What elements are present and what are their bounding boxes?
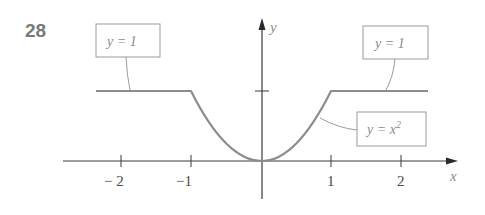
y-axis-arrow-icon xyxy=(259,18,266,30)
x-tick-label-1: 1 xyxy=(327,173,335,189)
graph: x y − 2 −1 1 2 y = 1 y = 1 y = x2 xyxy=(0,0,485,215)
x-tick-label-2: 2 xyxy=(397,173,405,189)
x-tick-label-neg1: −1 xyxy=(176,173,192,189)
left-box-leader xyxy=(126,57,130,90)
x-axis-label: x xyxy=(449,168,457,184)
parabola-label-text: y = x2 xyxy=(365,119,401,137)
x-axis-arrow-icon xyxy=(446,158,458,165)
left-label-text: y = 1 xyxy=(105,34,137,49)
right-box-leader xyxy=(386,59,395,90)
x-tick-label-neg2: − 2 xyxy=(104,173,124,189)
parabola-box-leader xyxy=(320,118,357,130)
parabola-label-exponent: 2 xyxy=(396,119,401,130)
parabola-label-base: y = x xyxy=(365,122,397,137)
y-axis-label: y xyxy=(268,19,277,35)
right-label-text: y = 1 xyxy=(373,36,405,51)
